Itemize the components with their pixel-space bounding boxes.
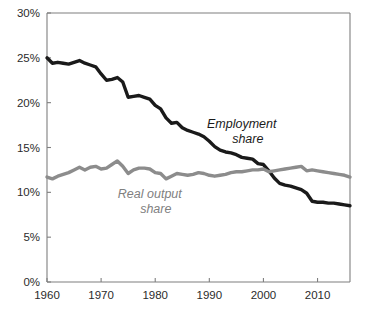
chart-container: 30%25%20%15%10%5%0% 19601970198019902000… — [0, 0, 367, 315]
series-line-real-output-share — [47, 161, 350, 179]
series-annotations: EmploymentshareReal outputshare — [118, 117, 277, 216]
y-axis-tick-marks — [47, 13, 51, 282]
y-tick-label: 20% — [17, 97, 40, 109]
real-output-share-label: Real outputshare — [118, 187, 182, 216]
series-line-employment-share — [47, 58, 350, 206]
x-tick-label: 1970 — [88, 289, 114, 301]
x-tick-label: 1980 — [142, 289, 168, 301]
employment-share-label-line2: share — [232, 132, 263, 146]
x-axis-labels: 196019701980199020002010 — [34, 289, 330, 301]
y-axis-labels: 30%25%20%15%10%5%0% — [17, 7, 40, 288]
x-tick-label: 2010 — [305, 289, 331, 301]
y-tick-label: 15% — [17, 142, 40, 154]
y-tick-label: 0% — [23, 276, 40, 288]
real-output-share-label-line1: Real output — [118, 187, 182, 201]
line-chart: 30%25%20%15%10%5%0% 19601970198019902000… — [0, 0, 367, 315]
y-tick-label: 10% — [17, 186, 40, 198]
employment-share-label: Employmentshare — [207, 117, 277, 146]
x-axis-tick-marks — [47, 278, 318, 282]
y-tick-label: 5% — [23, 231, 40, 243]
y-tick-label: 25% — [17, 52, 40, 64]
y-tick-label: 30% — [17, 7, 40, 19]
x-tick-label: 2000 — [251, 289, 277, 301]
x-tick-label: 1990 — [197, 289, 223, 301]
employment-share-label-line1: Employment — [207, 117, 277, 131]
real-output-share-label-line2: share — [140, 202, 171, 216]
x-tick-label: 1960 — [34, 289, 60, 301]
